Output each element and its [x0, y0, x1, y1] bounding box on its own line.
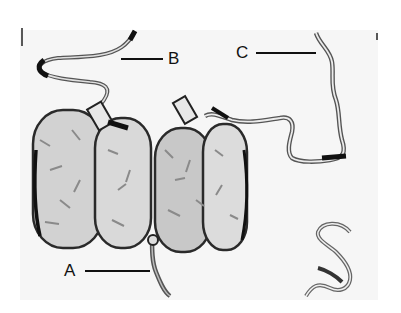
dna-fragment-s — [306, 224, 350, 296]
nucleosome-illustration — [0, 0, 401, 313]
dna-strand-b — [39, 31, 135, 112]
nucleosome-core-right — [155, 124, 247, 252]
label-a: A — [64, 262, 75, 279]
nucleosome-core-left — [33, 110, 151, 248]
figure-canvas: B C A — [0, 0, 401, 313]
label-b: B — [168, 50, 179, 67]
label-c: C — [236, 44, 248, 61]
